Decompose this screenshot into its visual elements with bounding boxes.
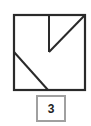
upper-diagonal-line — [49, 15, 85, 52]
figure-label: 3 — [48, 102, 55, 116]
lower-diagonal-line — [14, 52, 48, 90]
square-figure — [0, 0, 91, 95]
figure-label-box: 3 — [36, 95, 66, 122]
